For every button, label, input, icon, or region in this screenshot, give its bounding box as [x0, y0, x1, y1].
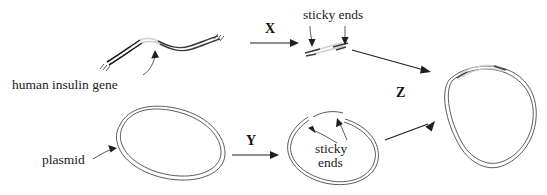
- insulin-gene-segment-lower: [142, 42, 160, 44]
- plasmid-leader-arrowhead: [108, 145, 117, 153]
- recombinant-plasmid: [445, 66, 537, 168]
- recombinant-plasmid-outer-ring: [445, 66, 537, 168]
- step-y-label: Y: [246, 133, 256, 148]
- cut-plasmid-sticky-pointer-right: [340, 124, 347, 140]
- cut-plasmid-sticky-flap: [313, 112, 343, 117]
- plasmid-leader-line: [93, 150, 110, 159]
- sticky-ends-bottom-label-line1: sticky: [315, 141, 347, 156]
- cut-plasmid-sticky-pointer-right-arrowhead: [336, 118, 343, 127]
- step-z-arrow-from-gene: [352, 50, 431, 74]
- sticky-ends-bottom-label-line2: ends: [318, 155, 343, 170]
- recombinant-plasmid-inner-ring: [448, 69, 533, 163]
- sticky-ends-pointer-left: [310, 26, 312, 41]
- plasmid-label: plasmid: [42, 152, 85, 167]
- sticky-ends-top-label: sticky ends: [303, 7, 363, 22]
- insulin-gene-leader-arrowhead: [151, 50, 159, 59]
- intact-plasmid: [93, 106, 225, 180]
- step-x-arrow: [250, 39, 299, 47]
- dna-strand-left-lower: [109, 43, 142, 65]
- dna-break-hatch-left: [100, 64, 110, 71]
- cut-plasmid-sticky-pointer-left-arrowhead: [308, 126, 316, 134]
- insulin-gene-leader-line: [143, 57, 155, 75]
- human-dna-strand: [100, 34, 224, 75]
- step-y-arrow: [232, 151, 279, 159]
- step-z-label: Z: [396, 85, 405, 100]
- human-insulin-gene-label: human insulin gene: [12, 77, 118, 92]
- sticky-ends-pointer-left-arrowhead: [308, 39, 315, 47]
- dna-strand-right-upper: [158, 41, 190, 48]
- insulin-gene-segment-upper: [140, 39, 158, 41]
- cut-gene-fragment: [305, 26, 349, 56]
- step-z-arrow-from-plasmid: [385, 121, 435, 140]
- plasmid-outer-ring: [116, 106, 225, 180]
- dna-strand-left-upper: [107, 40, 140, 62]
- genetic-engineering-diagram: human insulin gene X sticky ends: [0, 0, 547, 195]
- sticky-end-overhang-left-short: [306, 54, 316, 56]
- diagram-canvas: human insulin gene X sticky ends: [0, 0, 547, 195]
- step-x-label: X: [265, 21, 275, 36]
